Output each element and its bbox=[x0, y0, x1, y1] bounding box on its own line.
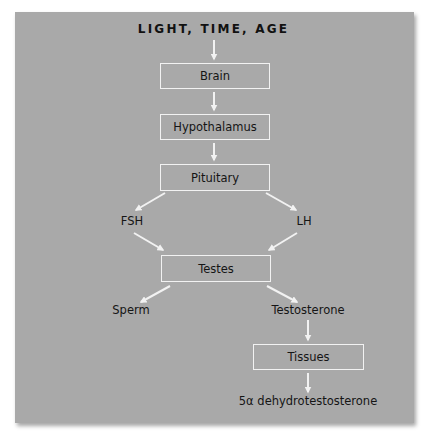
node-lh: LH bbox=[296, 216, 311, 228]
node-fsh: FSH bbox=[121, 216, 143, 228]
node-brain: Brain bbox=[160, 63, 270, 89]
node-pituitary-label: Pituitary bbox=[191, 171, 239, 185]
node-hypothalamus: Hypothalamus bbox=[160, 114, 270, 140]
diagram-title: LIGHT, TIME, AGE bbox=[0, 23, 427, 35]
node-tissues: Tissues bbox=[253, 344, 364, 370]
node-dht: 5α dehydrotestosterone bbox=[239, 396, 377, 408]
node-testes-label: Testes bbox=[198, 262, 234, 276]
node-sperm: Sperm bbox=[112, 305, 149, 317]
node-tissues-label: Tissues bbox=[287, 350, 329, 364]
node-testes: Testes bbox=[161, 255, 271, 282]
node-pituitary: Pituitary bbox=[160, 164, 270, 191]
node-testosterone: Testosterone bbox=[271, 305, 344, 317]
node-hypothalamus-label: Hypothalamus bbox=[173, 120, 256, 134]
node-brain-label: Brain bbox=[200, 69, 230, 83]
